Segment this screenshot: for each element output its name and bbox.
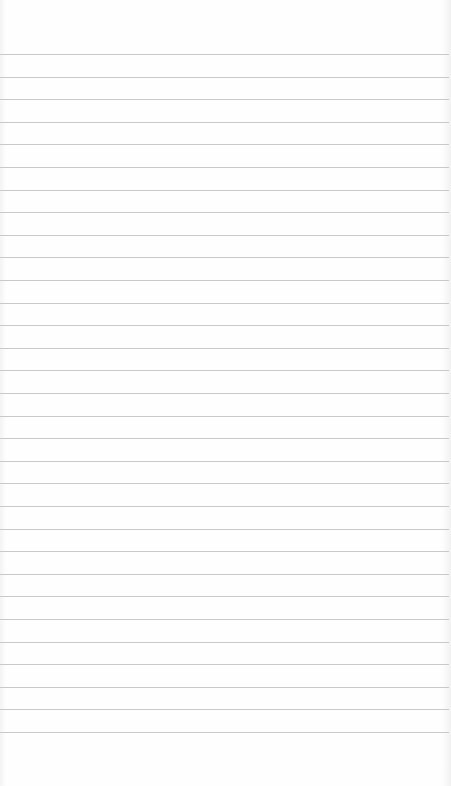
ruled-line (0, 596, 449, 597)
ruled-line (0, 348, 449, 349)
ruled-line (0, 257, 449, 258)
ruled-line (0, 483, 449, 484)
ruled-line (0, 235, 449, 236)
ruled-line (0, 416, 449, 417)
ruled-line (0, 122, 449, 123)
ruled-line (0, 461, 449, 462)
ruled-line (0, 393, 449, 394)
ruled-line (0, 77, 449, 78)
ruled-line (0, 144, 449, 145)
ruled-line (0, 280, 449, 281)
ruled-line (0, 642, 449, 643)
ruled-line (0, 54, 449, 55)
ruled-line (0, 664, 449, 665)
ruled-line (0, 99, 449, 100)
ruled-line (0, 529, 449, 530)
ruled-line (0, 687, 449, 688)
ruled-line (0, 732, 449, 733)
ruled-line (0, 370, 449, 371)
ruled-line (0, 167, 449, 168)
ruled-line (0, 506, 449, 507)
ruled-line (0, 619, 449, 620)
ruled-line (0, 438, 449, 439)
ruled-line (0, 303, 449, 304)
ruled-line (0, 212, 449, 213)
ruled-line (0, 325, 449, 326)
ruled-line (0, 574, 449, 575)
ruled-line (0, 551, 449, 552)
ruled-line (0, 190, 449, 191)
lined-paper-sheet (0, 0, 451, 786)
ruled-line (0, 709, 449, 710)
